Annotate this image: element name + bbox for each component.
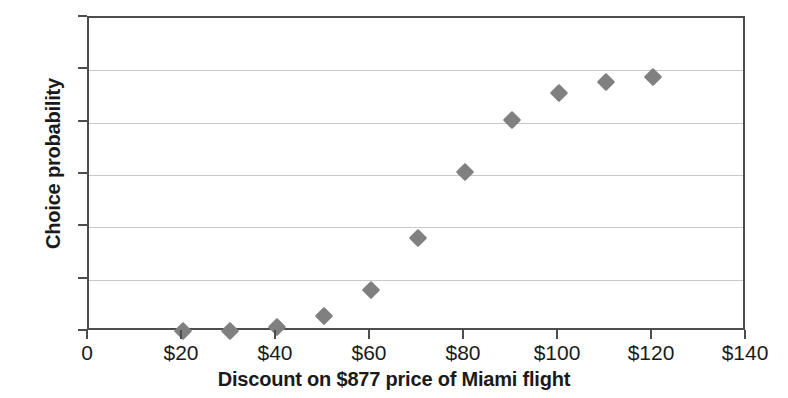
x-tick-mark bbox=[556, 330, 558, 339]
x-tick-mark bbox=[86, 330, 88, 339]
x-tick-mark bbox=[274, 330, 276, 339]
x-axis-ticks: 0$20$40$60$80$100$120$140 bbox=[0, 0, 788, 398]
x-tick-mark bbox=[462, 330, 464, 339]
x-tick-mark bbox=[180, 330, 182, 339]
x-tick-mark bbox=[368, 330, 370, 339]
x-tick-mark bbox=[744, 330, 746, 339]
x-axis-title: Discount on $877 price of Miami flight bbox=[0, 368, 788, 391]
choice-probability-scatter-chart: Choice probability 00.20.40.60.811.2 0$2… bbox=[0, 0, 788, 398]
x-tick-mark bbox=[650, 330, 652, 339]
x-tick-label: $140 bbox=[690, 341, 788, 365]
